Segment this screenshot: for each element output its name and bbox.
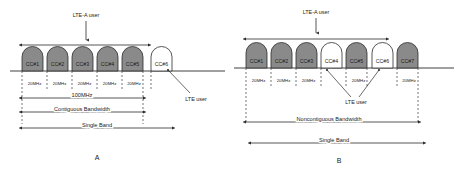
carrier-bw-cc1-b: 20MHz [252, 78, 266, 83]
carrier-label-cc3-b: CC#3 [300, 58, 313, 64]
carrier-label-cc1-b: CC#1 [250, 58, 263, 64]
carrier-group-b [246, 43, 418, 68]
carrier-shape-cc3-b [296, 43, 317, 68]
carrier-bw-cc1-a: 20MHz [28, 81, 42, 86]
diagram-caption-a: A [95, 154, 100, 161]
lte-user-leader-cc4-b [327, 70, 351, 97]
carrier-group-a [22, 47, 172, 71]
carrier-bw-cc3-b: 20MHz [302, 78, 316, 83]
lte-user-leader-dot-a [167, 69, 169, 71]
carrier-shape-cc5-b [346, 43, 367, 68]
carrier-bw-cc3-a: 20MHz [78, 81, 92, 86]
carrier-shape-cc7-b [397, 43, 418, 68]
carrier-bw-cc2-a: 20MHz [53, 81, 67, 86]
measure-label-single-band-b: Single Band [319, 137, 349, 143]
lte-user-label-b: LTE user [345, 99, 367, 105]
carrier-shape-cc6-b [372, 43, 393, 68]
diagram-caption-b: B [337, 157, 342, 164]
carrier-label-cc3-a: CC#3 [76, 61, 89, 67]
carrier-shape-cc5-a [122, 47, 143, 71]
carrier-label-cc5-b: CC#5 [350, 58, 363, 64]
lte-user-leader-dot-cc6-b [378, 69, 380, 71]
lte-user-leader-dot-cc4-b [326, 69, 328, 71]
carrier-shape-cc3-a [72, 47, 93, 71]
carrier-label-cc6-b: CC#6 [376, 58, 389, 64]
carrier-shape-cc2-a [47, 47, 68, 71]
carrier-bw-cc4-a: 20MHz [103, 81, 117, 86]
carrier-bw-cc2-b: 20MHz [277, 78, 291, 83]
carrier-label-cc4-b: CC#4 [325, 58, 338, 64]
carrier-label-cc2-b: CC#2 [275, 58, 288, 64]
carrier-bw-cc5-a: 20MHz [127, 81, 141, 86]
carrier-label-cc7-b: CC#7 [401, 58, 414, 64]
figure-canvas: LTE-A user CC#1 CC#2 CC#3 CC#4 CC#5 CC#6 [0, 0, 458, 174]
lte-a-user-label-b: LTE-A user [303, 9, 330, 15]
diagram-b: LTE-A user CC#1 CC#2 CC#3 CC#4 CC#5 CC#6 [229, 0, 458, 174]
lte-a-user-label-a: LTE-A user [73, 12, 100, 18]
measure-label-contiguous-a: Contiguous Bandwidth [54, 106, 110, 112]
lte-user-leader-a [168, 70, 190, 93]
carrier-label-cc1-a: CC#1 [26, 61, 39, 67]
carrier-shape-cc1-b [246, 43, 267, 68]
carrier-label-cc2-a: CC#2 [51, 61, 64, 67]
carrier-label-cc5-a: CC#5 [126, 61, 139, 67]
lte-user-leader-cc6-b [359, 70, 379, 97]
carrier-shape-cc1-a [22, 47, 43, 71]
carrier-bw-cc7-b: 20MHz [402, 78, 416, 83]
measure-label-single-band-a: Single Band [82, 122, 112, 128]
carrier-bw-cc5-b: 20MHz [352, 78, 366, 83]
carrier-label-cc6-a: CC#6 [155, 61, 168, 67]
carrier-shape-cc4-a [97, 47, 118, 71]
diagram-a: LTE-A user CC#1 CC#2 CC#3 CC#4 CC#5 CC#6 [0, 0, 229, 174]
lte-user-label-a: LTE user [185, 96, 207, 102]
carrier-shape-cc6-a [151, 47, 172, 71]
carrier-label-cc4-a: CC#4 [101, 61, 114, 67]
measure-label-noncontiguous-b: Noncontiguous Bandwidth [297, 116, 362, 122]
measure-label-100mhz-a: 100MHz [72, 92, 93, 98]
carrier-shape-cc4-b [321, 43, 342, 68]
carrier-shape-cc2-b [271, 43, 292, 68]
